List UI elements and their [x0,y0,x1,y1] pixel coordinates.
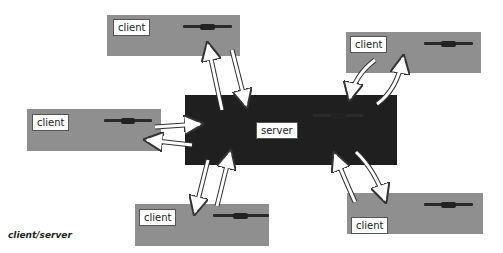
arrow-pair-bottom-right [335,152,385,202]
arrow-pair-bottom [195,153,230,212]
connection-arrows [0,0,503,253]
arrow-pair-top [208,45,246,110]
diagram-caption: client/server [8,230,72,240]
arrow-pair-left [147,124,200,145]
arrow-pair-top-right [350,58,403,104]
